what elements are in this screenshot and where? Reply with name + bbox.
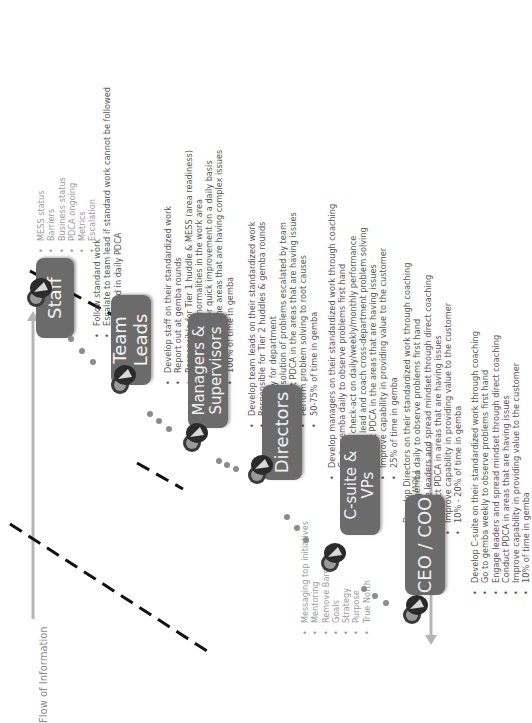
connector-dot xyxy=(224,462,230,468)
connector-dot xyxy=(79,348,85,354)
person-icon xyxy=(108,363,138,397)
connector-dot xyxy=(233,466,239,472)
upward-item: PDCA ongoing xyxy=(67,177,77,253)
bullet-item: Develop managers on their standardized w… xyxy=(327,204,337,480)
role-box-managers-supervisors: Managers & Supervisors xyxy=(188,313,228,428)
dashed-divider-middle xyxy=(137,463,183,489)
downward-item: Goals xyxy=(331,521,341,635)
connector-dot xyxy=(68,336,74,342)
downward-items-list: Messaging top initiatives Mentoring Remo… xyxy=(300,521,372,635)
bullet-item: Improve capability in providing value to… xyxy=(511,331,521,595)
role-bullets-ceo-coo: Develop C-suite on their standardized wo… xyxy=(470,331,532,595)
person-icon xyxy=(400,593,430,627)
upward-item: MESS status xyxy=(36,177,46,253)
downward-item: Purpose xyxy=(351,521,361,635)
connector-dot xyxy=(216,458,222,464)
upward-item: Metrics xyxy=(77,177,87,253)
role-box-c-suite-vps: C-suite & VPs xyxy=(340,435,380,535)
downward-item: Remove Barriers xyxy=(321,521,331,635)
upward-item: Business status xyxy=(57,177,67,253)
bullet-item: Follow standard work xyxy=(92,87,102,338)
role-box-ceo-coo: CEO / COO xyxy=(405,495,445,595)
role-label: Managers & Supervisors xyxy=(191,313,226,428)
bullet-item: 25% of time in gemba xyxy=(389,204,399,480)
bullet-item: 50-75% of time in gemba xyxy=(309,212,319,428)
person-icon xyxy=(24,276,54,310)
role-label: CEO / COO xyxy=(415,497,436,594)
bullet-item: Go to gemba weekly to observe problems f… xyxy=(480,331,490,595)
connector-dot xyxy=(383,600,389,606)
flow-label-top: Flow of Information xyxy=(38,626,49,723)
connector-dot xyxy=(284,514,290,520)
connector-dot xyxy=(372,593,378,599)
downward-item: Mentoring xyxy=(310,521,320,635)
connector-dot xyxy=(294,525,300,531)
connector-dot xyxy=(156,418,162,424)
bullet-item: Improve capability in providing value to… xyxy=(443,263,453,535)
bullet-item: 10% - 20% of time in gemba xyxy=(453,263,463,535)
bullet-item: Engage leaders and spread mindset throug… xyxy=(491,331,501,595)
connector-dot xyxy=(147,411,153,417)
bullet-item: 10% of time in gemba xyxy=(521,331,531,595)
bullet-item: Report out at gemba rounds xyxy=(173,150,183,385)
downward-item: True North xyxy=(362,521,372,635)
bullet-item: Develop staff on their standardized work xyxy=(163,150,173,385)
flow-arrow-top xyxy=(27,311,39,619)
upward-items-list: MESS status Barriers Business status PDC… xyxy=(36,177,98,253)
person-icon xyxy=(245,453,275,487)
person-icon xyxy=(318,541,348,575)
bullet-item: Improve capability in providing value to… xyxy=(378,204,388,480)
connector-dot xyxy=(166,426,172,432)
bullet-item: Develop C-suite on their standardized wo… xyxy=(470,331,480,595)
bullet-item: Develop team leads on their standardized… xyxy=(247,212,257,428)
connector-dot xyxy=(90,359,96,365)
bullet-item: Conduct PDCA in areas that are having is… xyxy=(501,331,511,595)
person-icon xyxy=(180,421,210,455)
role-label: C-suite & VPs xyxy=(343,435,378,535)
downward-item: Strategy xyxy=(341,521,351,635)
upward-item: Barriers xyxy=(46,177,56,253)
